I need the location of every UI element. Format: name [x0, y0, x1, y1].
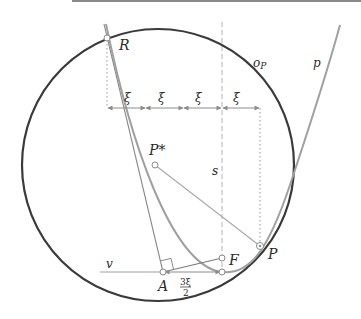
point-Pstar [152, 162, 158, 168]
label-F: F [228, 252, 240, 268]
frac-numerator: 3ξ [180, 277, 191, 287]
point-A [160, 269, 166, 275]
label-xi-4: ξ [233, 91, 241, 105]
label-xi-2: ξ [158, 91, 166, 105]
frac-denominator: 2 [183, 288, 189, 298]
label-A: A [156, 278, 168, 294]
line-Pstar-P [155, 165, 260, 246]
label-xi-1: ξ [124, 91, 132, 105]
label-Pstar: P* [148, 142, 165, 158]
label-oP-main: o [253, 56, 260, 70]
geometry-diagram: R P P* F A v s oP p ξ ξ ξ ξ 3ξ 2 [0, 0, 361, 319]
point-P-inner [259, 245, 261, 247]
label-xi-3: ξ [195, 91, 203, 105]
point-vertex [219, 269, 225, 275]
label-oP: oP [253, 56, 267, 71]
label-v: v [106, 257, 113, 271]
label-3xi-over-2: 3ξ 2 [180, 277, 191, 298]
label-oP-sub: P [259, 61, 267, 71]
label-p: p [313, 56, 321, 70]
label-P: P [267, 246, 278, 262]
parabola-p [106, 24, 340, 272]
point-R [104, 35, 110, 41]
point-F [219, 255, 225, 261]
label-R: R [118, 37, 130, 53]
label-s: s [212, 164, 218, 178]
